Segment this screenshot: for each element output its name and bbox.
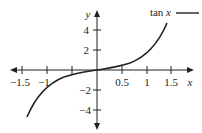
- x-tick-label: 1: [144, 76, 150, 88]
- y-axis-label: y: [85, 8, 91, 20]
- legend-label: tan x: [150, 6, 171, 18]
- x-tick-label: −1.5: [10, 76, 30, 88]
- y-axis-up-arrow-icon: [94, 10, 100, 17]
- y-tick-label: 2: [84, 44, 90, 56]
- x-axis-left-arrow-icon: [10, 67, 17, 73]
- y-tick-label: −2: [79, 84, 91, 96]
- x-axis-right-arrow-icon: [187, 67, 194, 73]
- y-tick-label: −4: [79, 104, 91, 116]
- x-tick-label: 0.5: [115, 76, 129, 88]
- y-tick-label: 4: [84, 24, 90, 36]
- legend: tan x: [150, 6, 199, 18]
- tan-chart: −1.5 −1 0.5 1 1.5 x y 4 2 −2 −4 tan x: [0, 0, 202, 133]
- y-axis-down-arrow-icon: [94, 123, 100, 130]
- x-tick-label: 1.5: [164, 76, 178, 88]
- x-axis-label: x: [187, 76, 193, 88]
